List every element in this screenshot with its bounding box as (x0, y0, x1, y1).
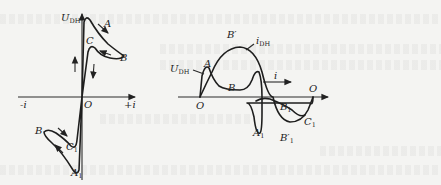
point-b-label: B (227, 82, 235, 93)
origin-left-label: O (196, 100, 204, 111)
right-panel: UDH A B′ iDH B i O O B1 A1 B′1 C1 (170, 29, 328, 145)
point-c1-label: C1 (304, 116, 316, 129)
point-a-label: A (103, 18, 111, 29)
point-a-label: A (203, 58, 211, 69)
x-neg-label: -i (20, 99, 27, 110)
i-dh-label: iDH (256, 35, 270, 48)
origin-right-label: O (309, 83, 317, 94)
left-panel: UDH A C B -i O +i B C1 A1 (18, 12, 136, 180)
figure-canvas: UDH A C B -i O +i B C1 A1 UDH A B′ iDH B… (0, 0, 441, 185)
point-b-lower-label: B (34, 125, 42, 136)
origin-label: O (84, 99, 92, 110)
upper-hysteresis-loop (82, 18, 124, 97)
x-pos-label: +i (124, 99, 136, 110)
u-dh-label: UDH (170, 63, 190, 76)
point-a1-label: A1 (70, 167, 82, 180)
point-b-prime-label: B′ (226, 29, 237, 40)
lower-hysteresis-loop (44, 97, 82, 173)
point-c-label: C (86, 35, 94, 46)
y-axis-label: UDH (61, 12, 81, 25)
direction-arrow-down (93, 64, 94, 78)
point-b-label: B (119, 52, 127, 63)
point-b1-prime-label: B′1 (279, 132, 294, 145)
point-a1-label: A1 (252, 127, 264, 140)
direction-arrow-lower-c (55, 145, 63, 153)
i-dh-leader-line (246, 44, 254, 50)
current-arrow-label: i (274, 70, 277, 81)
